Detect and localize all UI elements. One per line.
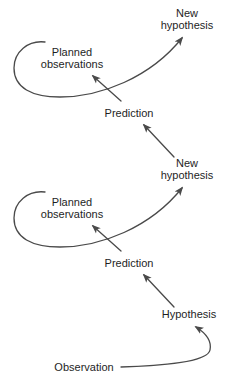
node-label-line: observations (41, 58, 103, 70)
node-label-line: Planned (41, 196, 103, 208)
node-prediction-mid: Prediction (105, 257, 154, 269)
node-label-line: New (161, 7, 214, 19)
node-label-line: New (161, 157, 214, 169)
node-planned-observations-mid: Planned observations (41, 196, 103, 220)
node-label-line: hypothesis (161, 19, 214, 31)
node-label-line: Prediction (105, 107, 154, 119)
arrow-hypothesis-to-prediction (144, 275, 174, 307)
node-planned-observations-top: Planned observations (41, 46, 103, 70)
arrow-prediction-to-planned-mid (93, 226, 121, 251)
arrow-observation-to-hypothesis (121, 327, 210, 367)
node-new-hypothesis-top: New hypothesis (161, 7, 214, 31)
node-label-line: Planned (41, 46, 103, 58)
diagram-connectors (0, 0, 226, 384)
node-label-line: Hypothesis (162, 308, 216, 320)
node-label-line: observations (41, 208, 103, 220)
scientific-method-cycle-diagram: New hypothesis Planned observations Pred… (0, 0, 226, 384)
node-label-line: Observation (54, 361, 113, 373)
arrow-newhyp-to-prediction-top (144, 125, 174, 157)
node-observation: Observation (54, 361, 113, 373)
arrow-prediction-to-planned-top (93, 76, 121, 101)
node-new-hypothesis-mid: New hypothesis (161, 157, 214, 181)
node-prediction-top: Prediction (105, 107, 154, 119)
node-label-line: hypothesis (161, 169, 214, 181)
node-label-line: Prediction (105, 257, 154, 269)
node-hypothesis: Hypothesis (162, 308, 216, 320)
